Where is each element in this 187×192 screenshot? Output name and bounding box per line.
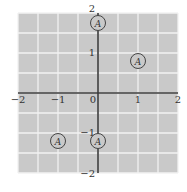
x-tick-label: −1: [51, 94, 66, 105]
x-tick-label: 0: [90, 94, 96, 105]
marker-label: A: [134, 57, 142, 67]
marker-label: A: [94, 19, 102, 29]
marker-label: A: [94, 137, 102, 147]
circled-marker: A: [91, 134, 106, 149]
marker-label: A: [54, 137, 62, 147]
scatter-chart: −2−1012 21−1−2 AAAA: [0, 0, 187, 192]
x-tick-label: 1: [135, 94, 141, 105]
y-tick-label: 1: [89, 47, 95, 58]
x-tick-label: −2: [11, 94, 26, 105]
y-tick-label: 2: [89, 3, 95, 14]
circled-marker: A: [91, 16, 106, 31]
y-tick-label: −2: [80, 168, 95, 179]
circled-marker: A: [131, 54, 146, 69]
x-tick-label: 2: [175, 94, 181, 105]
circled-marker: A: [51, 134, 66, 149]
